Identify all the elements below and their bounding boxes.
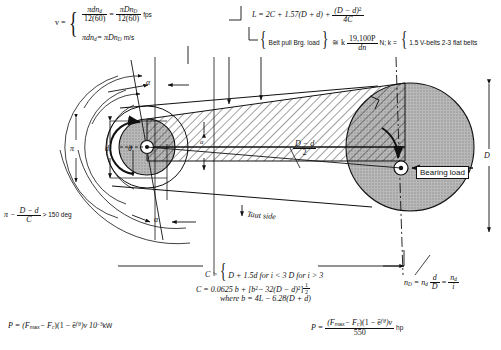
- bearing-load-callout: Bearing load: [416, 162, 469, 178]
- power-kw-a: P = (F: [8, 321, 30, 330]
- velocity-num-1-sub: d: [99, 8, 102, 14]
- velocity-l2-b: = πDn: [97, 33, 118, 42]
- velocity-num-2-sub: D: [134, 8, 138, 14]
- belt-pull-rel-text: ≅ k: [332, 38, 345, 47]
- center-distance-case1: D + 1.5d for i < 3: [228, 271, 286, 280]
- velocity-units-ms: m/s: [124, 34, 134, 41]
- speed-ratio-eq1: = n: [414, 278, 425, 287]
- speed-ratio-eq1-sub: d: [425, 281, 428, 287]
- power-kw-sub-max: max: [30, 324, 40, 330]
- belt-length-num-sup: 2: [359, 6, 362, 12]
- belt-drive-figure: v = { πdnd 12(60) = πDnD 12(60) fps πdnd…: [0, 0, 501, 350]
- center-eq-exponent: 1 2: [303, 285, 310, 291]
- bearing-load-text: Bearing load: [416, 166, 469, 179]
- power-hp-units: hp: [396, 324, 403, 331]
- half-diff-den: 2: [293, 149, 316, 157]
- wrap-tail: > 150 deg: [43, 211, 72, 218]
- belt-length-lhs: L = 2C + 1.57(D + d) +: [252, 10, 330, 19]
- velocity-num-1: πdn: [87, 5, 99, 14]
- power-kw-d: )v 10: [81, 321, 97, 330]
- nd-leader-line: [415, 255, 430, 275]
- d-label: d: [105, 145, 109, 153]
- center-distance-case2: D for i > 3: [288, 271, 323, 280]
- alpha-top-arrow-left: [108, 85, 148, 92]
- power-kw-b: − F: [40, 321, 52, 330]
- speed-ratio-formula: nD = nd d D = nd i: [404, 274, 459, 291]
- belt-upper-wedge: [147, 83, 405, 147]
- power-hp-n2: − F: [345, 318, 357, 327]
- center-distance-where: where b = 4L − 6.28(D + d): [220, 295, 311, 303]
- half-diff-label: D − d 2: [293, 140, 316, 157]
- power-hp-n1-sub: max: [335, 321, 345, 327]
- power-hp-formula: P = (Fmax− Fc)(1 − ēf′θ)v 550 hp: [311, 319, 403, 337]
- speed-ratio-eq2: =: [442, 278, 447, 287]
- belt-length-formula: L = 2C + 1.57(D + d) + (D − d)2 4C: [252, 7, 364, 24]
- velocity-brace: {: [66, 7, 80, 37]
- velocity-den-2: 12(60): [116, 15, 141, 23]
- velocity-lhs: v =: [55, 19, 66, 27]
- power-kw-formula: P = (Fmax− Fc)(1 − ēf′θ)v 10−3kW: [8, 322, 112, 331]
- belt-pull-rel: ≅ k: [332, 38, 345, 47]
- velocity-units-fps: fps: [143, 11, 152, 18]
- belt-length-den: 4C: [332, 16, 363, 24]
- center-distance-formula: C >{ D + 1.5d for i < 3 D for i > 3: [205, 259, 323, 281]
- alpha-top-label: α: [146, 79, 150, 87]
- alpha-bottom-arrow-left: [132, 215, 150, 222]
- speed-ratio-f1-den: D: [430, 283, 440, 291]
- velocity-l2-a: πdn: [82, 33, 94, 42]
- velocity-line1: πdnd 12(60) = πDnD 12(60) fps: [82, 6, 152, 23]
- speed-ratio-f2-num-sub: d: [454, 276, 457, 282]
- power-hp-n3: )(1 − ē: [359, 318, 380, 327]
- brg-load-label: Brg. load: [294, 39, 320, 46]
- speed-ratio-n-sub: D: [408, 281, 412, 287]
- power-kw-c: )(1 − ē: [54, 321, 75, 330]
- power-hp-n1: (F: [327, 318, 335, 327]
- belt-lower-band: [147, 147, 405, 161]
- center-eq-mid: − 32(D − d): [258, 285, 298, 294]
- center-distance-lhs: C >: [205, 270, 218, 279]
- power-hp-den: 550: [325, 329, 394, 337]
- belt-pull-units: N; k =: [380, 39, 397, 46]
- alpha-top-arc: [84, 76, 142, 108]
- belt-pull-num: 19,100P: [349, 34, 375, 43]
- center-eq-b: b + [b: [235, 285, 256, 294]
- taut-side-line: [112, 186, 372, 207]
- velocity-equals: =: [109, 10, 114, 19]
- wrap-angle-formula: π − D − d C > 150 deg: [4, 207, 72, 224]
- power-hp-lhs: P =: [311, 323, 323, 332]
- wrap-den: C: [17, 216, 40, 224]
- theta-label: θ: [128, 145, 132, 153]
- center-eq-exp-num: 1: [303, 282, 310, 289]
- k-value-flatbelts: 2-3 flat belts: [442, 39, 477, 46]
- belt-pull-den: dn: [347, 44, 377, 52]
- velocity-den-1: 12(60): [82, 15, 107, 23]
- belt-pull-formula: { Belt pull Brg. load } ≅ k 19,100P dn N…: [258, 27, 477, 52]
- belt-length-num: (D − d): [334, 6, 359, 15]
- velocity-line2: πdnd= πDnD m/s: [82, 34, 134, 42]
- speed-ratio-f2-den: i: [448, 283, 459, 291]
- power-hp-n4: )v: [386, 318, 392, 327]
- velocity-num-2: πDn: [120, 5, 134, 14]
- velocity-l2-sub2: D: [118, 36, 122, 42]
- center-eq-lhs: C = 0.0625: [196, 285, 233, 294]
- pi-label: π: [70, 145, 74, 153]
- alpha-center-label: α: [200, 139, 203, 146]
- power-kw-units: kW: [103, 322, 112, 329]
- k-value-vbelts: 1.5 V-belts: [409, 39, 440, 46]
- belt-pull-label: Belt pull: [269, 39, 292, 46]
- wrap-angle-lhs: π −: [4, 210, 15, 219]
- D-label: D: [484, 152, 490, 160]
- alpha-bottom-label: α: [154, 216, 158, 224]
